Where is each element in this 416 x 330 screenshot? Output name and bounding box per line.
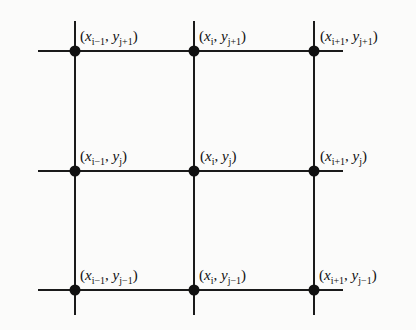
node-label: (xi, yj+1) xyxy=(199,27,246,45)
grid-node xyxy=(70,46,81,57)
node-label: (xi+1, yj−1) xyxy=(319,266,377,284)
node-label: (xi−1, yj+1) xyxy=(80,27,138,45)
node-label: (xi, yj) xyxy=(200,147,236,165)
grid-node xyxy=(309,285,320,296)
grid-node xyxy=(309,166,320,177)
grid-node xyxy=(189,46,200,57)
grid-node xyxy=(70,166,81,177)
node-label: (xi+1, yj) xyxy=(320,147,367,165)
node-label: (xi+1, yj+1) xyxy=(320,27,378,45)
grid-diagram: (xi−1, yj+1) (xi, yj+1) (xi+1, yj+1) (xi… xyxy=(0,0,416,330)
grid-node xyxy=(189,166,200,177)
grid-node xyxy=(70,285,81,296)
node-label: (xi−1, yj−1) xyxy=(80,266,138,284)
grid-node xyxy=(189,285,200,296)
node-label: (xi−1, yj) xyxy=(80,147,127,165)
grid-node xyxy=(309,46,320,57)
node-label: (xi, yj−1) xyxy=(199,266,246,284)
